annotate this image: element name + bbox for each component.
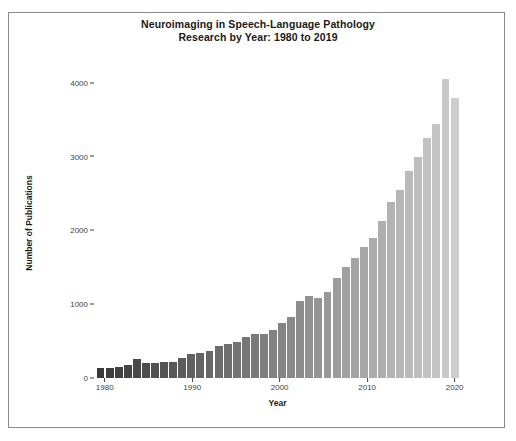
bar bbox=[396, 190, 404, 378]
bar bbox=[342, 267, 350, 378]
x-axis-tick: 2010 bbox=[358, 378, 376, 392]
bar bbox=[432, 124, 440, 378]
bar bbox=[196, 353, 204, 378]
bar bbox=[387, 202, 395, 378]
y-axis-tick: 3000 bbox=[70, 152, 94, 161]
bar bbox=[378, 221, 386, 378]
chart-title-line-2: Research by Year: 1980 to 2019 bbox=[0, 31, 516, 44]
bar bbox=[97, 368, 105, 378]
y-axis-tick: 2000 bbox=[70, 226, 94, 235]
bar bbox=[451, 98, 459, 378]
bar bbox=[369, 238, 377, 378]
bar bbox=[142, 363, 150, 378]
y-axis-tick: 1000 bbox=[70, 300, 94, 309]
bar bbox=[324, 292, 332, 378]
chart-title-line-1: Neuroimaging in Speech-Language Patholog… bbox=[0, 18, 516, 31]
x-axis-tick: 2020 bbox=[446, 378, 464, 392]
bar bbox=[115, 367, 123, 378]
y-axis-tick: 4000 bbox=[70, 78, 94, 87]
bar bbox=[333, 278, 341, 378]
bar bbox=[442, 79, 450, 378]
bar bbox=[151, 363, 159, 378]
bar bbox=[251, 334, 259, 378]
y-axis-label: Number of Publications bbox=[24, 68, 38, 378]
bar bbox=[351, 258, 359, 378]
x-axis-tick: 2000 bbox=[271, 378, 289, 392]
bar bbox=[287, 317, 295, 378]
y-axis-tick: 0 bbox=[84, 374, 94, 383]
x-axis-tick: 1990 bbox=[183, 378, 201, 392]
bar bbox=[305, 296, 313, 378]
bar bbox=[278, 323, 286, 378]
bar bbox=[206, 351, 214, 378]
bar bbox=[414, 157, 422, 378]
bar bbox=[160, 362, 168, 378]
bar bbox=[260, 334, 268, 378]
bar-series bbox=[96, 68, 459, 378]
bar bbox=[360, 247, 368, 378]
x-axis-label: Year bbox=[96, 398, 459, 408]
bar bbox=[169, 362, 177, 378]
bar bbox=[124, 365, 132, 378]
bar bbox=[242, 337, 250, 378]
chart-title: Neuroimaging in Speech-Language Patholog… bbox=[0, 18, 516, 44]
bar bbox=[224, 344, 232, 378]
plot-area bbox=[96, 68, 459, 378]
bar bbox=[296, 301, 304, 379]
bar bbox=[187, 354, 195, 378]
bar bbox=[269, 330, 277, 378]
bar bbox=[233, 342, 241, 378]
figure: Neuroimaging in Speech-Language Patholog… bbox=[0, 0, 516, 441]
bar bbox=[215, 346, 223, 378]
bar bbox=[178, 358, 186, 378]
bar bbox=[405, 171, 413, 378]
bar bbox=[314, 298, 322, 378]
bar bbox=[106, 368, 114, 378]
bar bbox=[423, 138, 431, 378]
x-axis-tick: 1980 bbox=[96, 378, 114, 392]
bar bbox=[133, 359, 141, 378]
y-axis: 01000200030004000 bbox=[0, 68, 96, 378]
